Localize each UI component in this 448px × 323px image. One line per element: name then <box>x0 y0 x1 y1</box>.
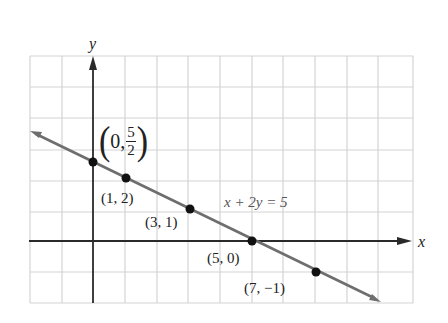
equation-label: x + 2y = 5 <box>224 195 288 210</box>
point-7-neg1 <box>312 268 321 277</box>
point-label-0-5-2: ( 0, 5 2 ) <box>99 124 148 158</box>
fraction-denominator: 2 <box>127 142 135 158</box>
y-axis-label: y <box>89 36 96 52</box>
point-0-5-2 <box>89 158 98 167</box>
point-label-prefix: 0, <box>110 130 125 153</box>
point-5-0 <box>248 237 257 246</box>
coordinate-plane <box>0 0 448 323</box>
point-3-1 <box>186 205 195 214</box>
point-label-1-2: (1, 2) <box>101 191 134 206</box>
open-paren: ( <box>99 121 110 160</box>
close-paren: ) <box>137 121 148 160</box>
fraction-numerator: 5 <box>126 125 136 142</box>
x-axis-arrow-icon <box>397 237 412 245</box>
point-label-5-0: (5, 0) <box>207 251 240 266</box>
y-axis-arrow-icon <box>89 56 97 70</box>
x-axis-label: x <box>418 234 425 250</box>
fraction: 5 2 <box>126 125 136 158</box>
point-label-7-neg1: (7, −1) <box>244 281 285 296</box>
point-label-3-1: (3, 1) <box>145 215 178 230</box>
line-x-plus-2y-eq-5 <box>30 131 381 302</box>
point-1-2 <box>122 174 131 183</box>
